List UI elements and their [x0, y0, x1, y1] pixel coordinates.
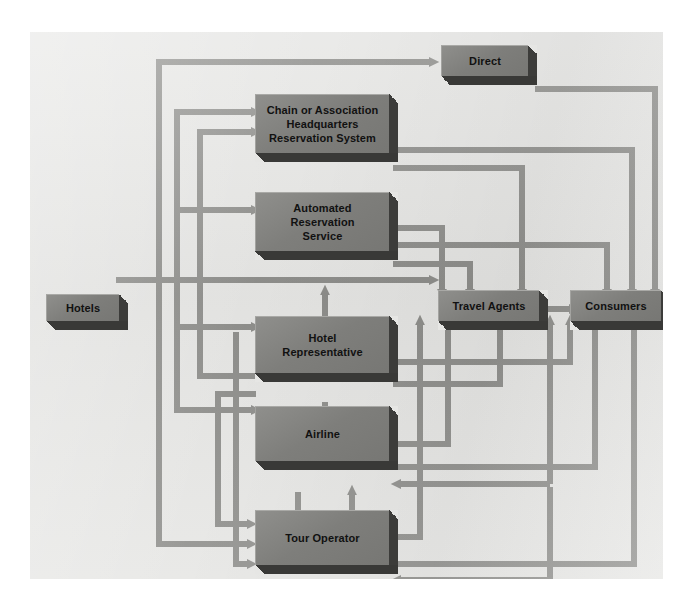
- node-automated-reservation-service[interactable]: Automated Reservation Service: [255, 192, 398, 260]
- node-touroperator-face: Tour Operator: [255, 510, 389, 565]
- edge-hotels-airline: [177, 280, 252, 410]
- node-hotelrep-face: Hotel Representative: [255, 316, 389, 373]
- node-corner-bl: [46, 321, 55, 330]
- node-hotelrep-label-line1: Hotel: [282, 331, 362, 345]
- node-consumers-face: Consumers: [570, 290, 661, 321]
- node-direct[interactable]: Direct: [441, 45, 537, 85]
- node-airline-label: Airline: [305, 427, 340, 441]
- node-chain-label-line3: Reservation System: [267, 131, 379, 145]
- node-corner-tr: [389, 406, 398, 415]
- node-hotels-face: Hotels: [46, 294, 119, 321]
- node-airline[interactable]: Airline: [255, 406, 398, 470]
- node-bevel-bottom: [255, 373, 398, 382]
- edge-hotels-automated: [177, 210, 252, 280]
- node-touroperator-label: Tour Operator: [285, 531, 359, 545]
- node-automated-label-line2: Reservation: [290, 215, 354, 229]
- node-corner-tr: [119, 294, 128, 303]
- diagram-figure: Hotels Direct Chain or Association Headq…: [30, 32, 663, 579]
- node-hotel-representative[interactable]: Hotel Representative: [255, 316, 398, 382]
- node-consumers-label: Consumers: [585, 299, 646, 313]
- node-tour-operator[interactable]: Tour Operator: [255, 510, 398, 574]
- node-direct-label: Direct: [469, 54, 501, 68]
- node-automated-label-line1: Automated: [290, 201, 354, 215]
- node-hotels-label: Hotels: [66, 301, 100, 315]
- node-corner-bl: [255, 373, 264, 382]
- edge-left-touroperator-c: [236, 332, 248, 564]
- node-corner-tr: [389, 94, 398, 103]
- node-corner-bl: [570, 321, 579, 330]
- node-bevel-right: [389, 192, 398, 260]
- node-corner-bl: [438, 321, 447, 330]
- node-bevel-bottom: [255, 461, 398, 470]
- node-airline-face: Airline: [255, 406, 389, 461]
- node-bevel-bottom: [441, 76, 537, 85]
- node-automated-label-line3: Service: [290, 229, 354, 243]
- node-hotelrep-label-line2: Representative: [282, 345, 362, 359]
- edge-hotelrep-chain: [200, 132, 256, 376]
- edge-automated-consumers: [393, 245, 607, 290]
- node-chain-label-line2: Headquarters: [267, 117, 379, 131]
- node-corner-bl: [255, 461, 264, 470]
- node-corner-tr: [661, 290, 663, 299]
- node-corner-bl: [255, 153, 264, 162]
- node-travelagents-label: Travel Agents: [452, 299, 525, 313]
- edge-hotels-chain: [177, 112, 252, 280]
- node-corner-bl: [441, 76, 450, 85]
- node-bevel-bottom: [255, 153, 398, 162]
- node-chain-face: Chain or Association Headquarters Reserv…: [255, 94, 389, 153]
- node-bevel-bottom: [570, 321, 663, 330]
- node-direct-face: Direct: [441, 45, 528, 76]
- node-corner-tr: [528, 45, 537, 54]
- node-bevel-bottom: [438, 321, 548, 330]
- node-chain-headquarters[interactable]: Chain or Association Headquarters Reserv…: [255, 94, 398, 162]
- node-bevel-bottom: [255, 251, 398, 260]
- node-corner-tr: [389, 316, 398, 325]
- node-travelagents-face: Travel Agents: [438, 290, 539, 321]
- node-automated-face: Automated Reservation Service: [255, 192, 389, 251]
- node-bevel-bottom: [255, 565, 398, 574]
- node-corner-tr: [539, 290, 548, 299]
- node-bevel-bottom: [46, 321, 128, 330]
- node-corner-bl: [255, 251, 264, 260]
- edge-hotels-hotelrep: [177, 280, 252, 327]
- node-corner-bl: [255, 565, 264, 574]
- node-consumers[interactable]: Consumers: [570, 290, 663, 330]
- node-bevel-right: [389, 94, 398, 162]
- edge-direct-consumers: [535, 89, 655, 290]
- node-corner-tr: [389, 192, 398, 201]
- node-chain-label-line1: Chain or Association: [267, 103, 379, 117]
- node-corner-tr: [389, 510, 398, 519]
- node-hotels[interactable]: Hotels: [46, 294, 128, 330]
- diagram-stage: Hotels Direct Chain or Association Headq…: [0, 0, 689, 602]
- node-travel-agents[interactable]: Travel Agents: [438, 290, 548, 330]
